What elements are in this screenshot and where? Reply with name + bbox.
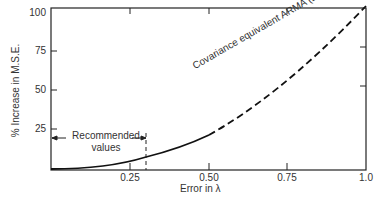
dashed-curve-arma: [209, 6, 366, 135]
x-tick-label: 0.25: [110, 172, 150, 183]
y-tick-label: 75: [16, 45, 46, 56]
x-ticks: [130, 8, 287, 170]
recommended-values-annotation: Recommended values: [66, 130, 146, 154]
y-tick-label: 50: [16, 84, 46, 95]
y-tick-label: 25: [16, 123, 46, 134]
x-tick-label: 1.0: [346, 172, 377, 183]
y-tick-label: 100: [16, 7, 46, 18]
x-axis-label: Error in λ: [180, 183, 221, 194]
x-tick-label: 0.50: [189, 172, 229, 183]
y-axis-label: % Increase in M.S.E.: [10, 36, 21, 146]
x-tick-label: 0.75: [267, 172, 307, 183]
